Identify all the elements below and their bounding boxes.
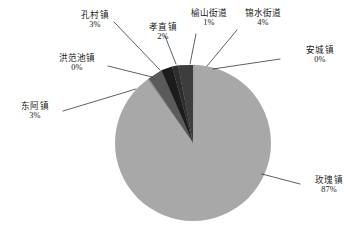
pie-label-hongfanci: 洪范池镇 0% (46, 53, 108, 73)
pie-label-meigui-value: 87% (303, 185, 355, 195)
pie-label-hongfanci-name: 洪范池镇 (46, 53, 108, 63)
pie-label-meigui: 玫瑰镇 87% (303, 175, 355, 195)
pie-label-jinshui: 锦水街道 4% (232, 8, 294, 28)
pie-label-xiaozhi-value: 2% (135, 32, 191, 42)
pie-label-yushan: 榆山街道 1% (178, 8, 240, 28)
pie-label-donga: 东阿镇 3% (7, 101, 63, 121)
pie-label-donga-name: 东阿镇 (7, 101, 63, 111)
leader-line-hongfanci (108, 66, 152, 77)
pie-chart-figure: 孔村镇 3% 孝直镇 2% 榆山街道 1% 锦水街道 4% 安城镇 0% 洪范池… (0, 0, 361, 241)
pie-label-jinshui-value: 4% (232, 18, 294, 28)
pie-label-meigui-name: 玫瑰镇 (303, 175, 355, 185)
leader-line-jinshui (207, 30, 237, 66)
pie-label-kongcun-name: 孔村镇 (67, 10, 123, 20)
pie-label-yushan-value: 1% (178, 18, 240, 28)
pie-label-kongcun-value: 3% (67, 20, 123, 30)
pie-label-donga-value: 3% (7, 111, 63, 121)
pie-label-kongcun: 孔村镇 3% (67, 10, 123, 30)
pie-label-ancheng-name: 安城镇 (292, 45, 348, 55)
pie-label-ancheng-value: 0% (292, 55, 348, 65)
leader-line-ancheng (213, 59, 280, 69)
pie-label-hongfanci-value: 0% (46, 63, 108, 73)
pie-label-jinshui-name: 锦水街道 (232, 8, 294, 18)
pie-label-ancheng: 安城镇 0% (292, 45, 348, 65)
pie-label-yushan-name: 榆山街道 (178, 8, 240, 18)
leader-line-meigui (262, 174, 300, 184)
